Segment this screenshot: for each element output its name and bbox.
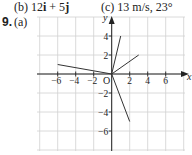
y-axis-label: y <box>102 12 108 23</box>
vector-line <box>58 65 112 75</box>
x-tick-label: −4 <box>69 76 79 86</box>
x-axis-label: x <box>186 71 192 82</box>
x-tick-label: 4 <box>145 76 150 86</box>
x-tick-label: −6 <box>51 76 61 86</box>
x-tick-label: −2 <box>87 76 97 86</box>
x-tick-label: 6 <box>163 76 168 86</box>
x-tick-label: 2 <box>127 76 132 86</box>
y-tick-label: −6 <box>98 127 108 137</box>
y-tick-label: −4 <box>98 108 108 118</box>
y-tick-label: 4 <box>103 32 108 42</box>
vector-plot: xyO−6−4−224642−2−4−6 <box>0 0 192 155</box>
y-tick-label: 2 <box>103 51 108 61</box>
y-tick-label: −2 <box>98 89 108 99</box>
origin-label: O <box>103 75 110 86</box>
